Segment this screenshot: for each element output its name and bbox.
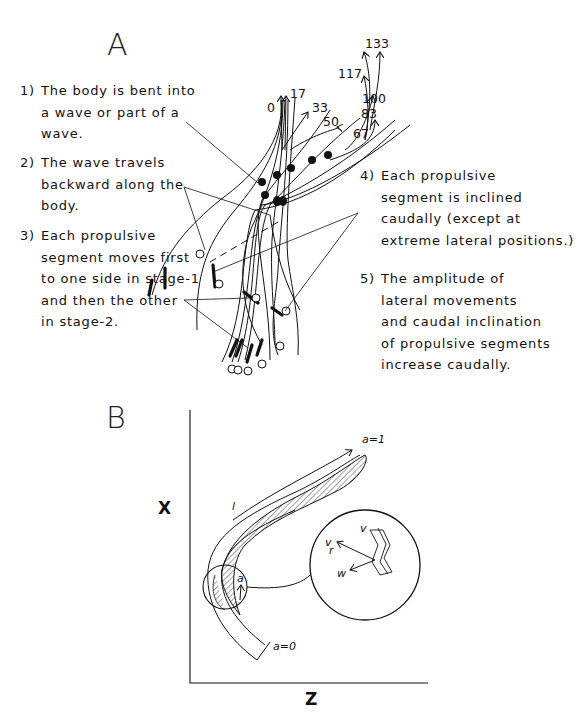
time-label-100: 100 [362, 91, 386, 106]
segment-label: a [237, 572, 244, 585]
velocity-vr-subscript: r [329, 544, 335, 557]
velocity-v-label: v [360, 522, 367, 535]
tail-label: a=0 [273, 640, 296, 653]
time-label-117: 117 [338, 66, 362, 81]
x-axis-label: Z [305, 689, 317, 709]
body-length-label: l [232, 500, 235, 513]
time-label-83: 83 [361, 106, 377, 121]
axes [190, 410, 428, 683]
head-label: a=1 [362, 433, 385, 446]
time-label-50: 50 [323, 114, 339, 129]
time-label-33: 33 [312, 100, 328, 115]
time-label-17: 17 [290, 86, 306, 101]
panel-a-wave-diagram: 0 17 33 50 67 83 100 117 133 [0, 0, 583, 400]
velocity-w-label: w [337, 567, 346, 580]
magnified-segment [310, 510, 420, 620]
time-label-67: 67 [353, 126, 369, 141]
time-label-0: 0 [267, 100, 275, 115]
velocity-vr-label: v [325, 536, 332, 549]
y-axis-label: X [158, 498, 171, 518]
time-label-133: 133 [365, 36, 389, 51]
panel-b-label: B [106, 400, 126, 435]
